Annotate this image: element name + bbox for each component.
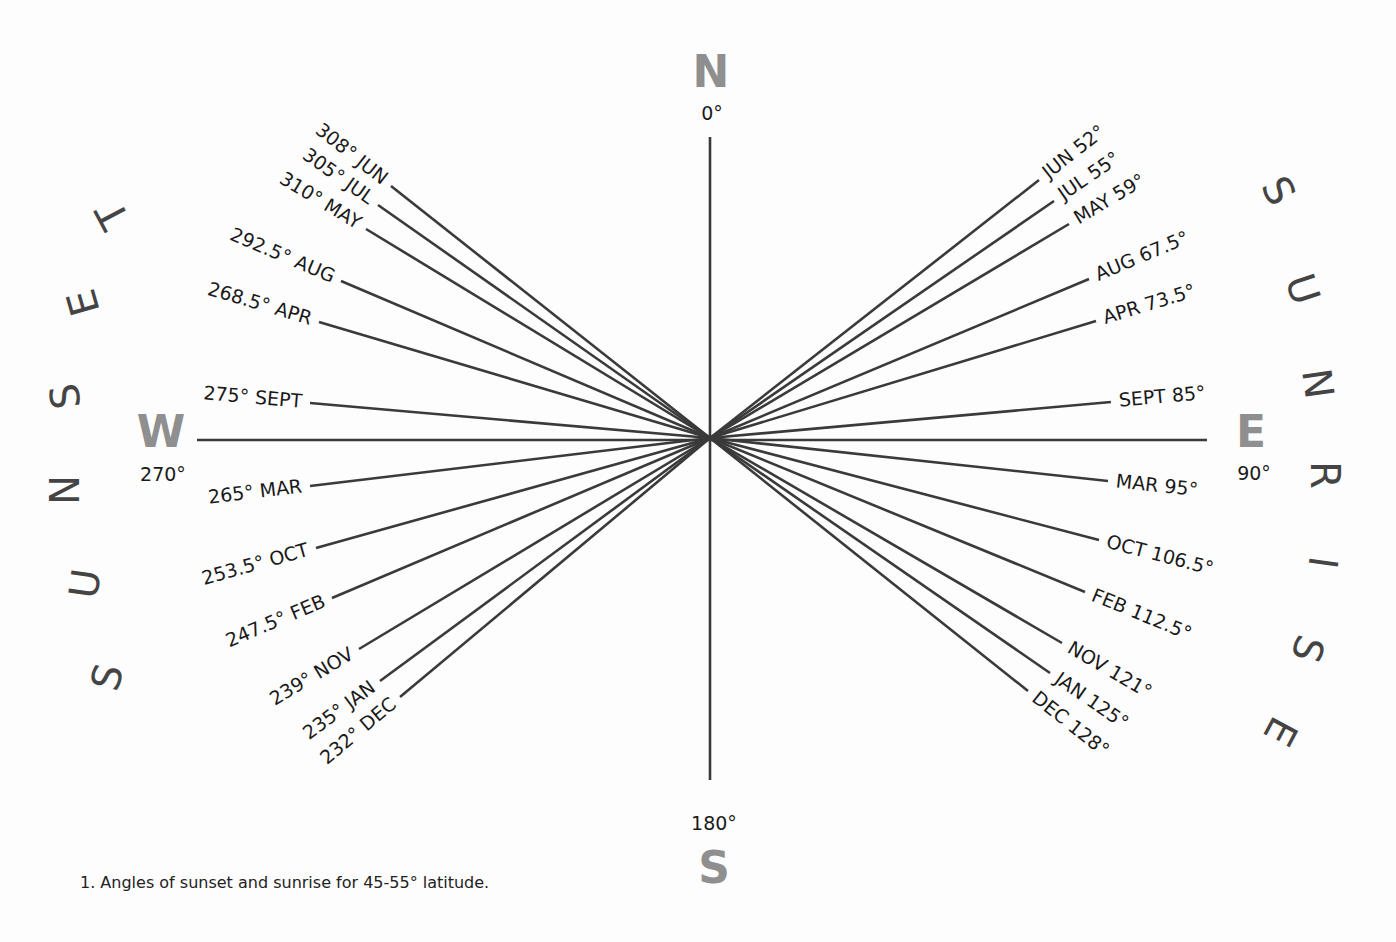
sunrise-letter: U [1276,268,1329,310]
sunrise-ray-jul [710,201,1054,438]
west-label: W [137,406,186,457]
sunset-ray-may [366,229,710,438]
sunset-arc-word: SUNSET [40,193,138,695]
sunrise-label-aug: AUG 67.5° [1092,226,1192,285]
sunrise-letter: N [1293,366,1343,402]
sunrise-label-sept: SEPT 85° [1118,381,1206,411]
sunrise-ray-jun [710,180,1039,438]
sunrise-letter: R [1302,461,1348,489]
sunrise-ray-mar [710,438,1108,481]
north-degree: 0° [701,102,723,124]
east-label: E [1236,406,1266,457]
sunset-letter: S [82,659,133,695]
sunset-label-feb: 247.5° FEB [222,590,328,652]
sunrise-arc-word: SUNRISE [1252,169,1348,754]
north-label: N [693,46,730,97]
sunrise-letter: E [1254,709,1306,753]
sunset-ray-dec [400,438,710,697]
sunset-ray-aug [341,281,710,438]
sunset-label-sept: 275° SEPT [203,381,304,412]
sunset-ray-jan [380,438,710,681]
sunrise-letter: I [1299,553,1346,571]
sunrise-ray-oct [710,438,1099,540]
south-label: S [698,842,730,893]
sunrise-label-feb: FEB 112.5° [1089,583,1195,644]
sunset-letter: N [42,475,88,505]
sunset-ray-jul [378,205,710,438]
sunset-letter: E [58,284,109,321]
sunset-label-mar: 265° MAR [207,475,303,508]
sunrise-label-mar: MAR 95° [1115,469,1199,500]
sunrise-label-apr: APR 73.5° [1100,279,1198,328]
sunset-ray-nov [359,438,710,649]
sunrise-ray-dec [710,438,1028,691]
sunrise-label-oct: OCT 106.5° [1104,530,1216,579]
sunrise-ray-may [710,224,1069,438]
sun-angle-diagram: 308° JUN305° JUL310° MAY292.5° AUG268.5°… [0,0,1396,942]
sunset-label-oct: 253.5° OCT [199,538,311,589]
west-degree: 270° [140,463,186,485]
sunset-letter: S [40,381,89,413]
sunset-label-aug: 292.5° AUG [227,223,338,287]
sunrise-ray-nov [710,438,1062,643]
sunset-letter: T [86,193,139,238]
sunrise-letter: S [1282,630,1334,668]
sunset-letter: U [60,566,110,601]
sunrise-ray-aug [710,279,1089,438]
month-labels: 308° JUN305° JUL310° MAY292.5° AUG268.5°… [199,118,1216,768]
sunset-ray-oct [316,438,710,548]
sunset-ray-jun [391,186,710,438]
sunset-label-apr: 268.5° APR [205,277,314,329]
figure-caption: 1. Angles of sunset and sunrise for 45-5… [80,873,489,892]
sunrise-letter: S [1252,169,1305,213]
south-degree: 180° [691,812,737,834]
sunset-ray-feb [332,438,710,598]
east-degree: 90° [1237,462,1271,484]
